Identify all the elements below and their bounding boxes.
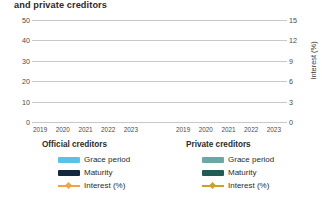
y-axis-right-tick: 15 — [289, 16, 297, 25]
y-axis-left-ticks: 50403020100 — [10, 20, 30, 123]
gridline — [32, 20, 287, 21]
y-axis-right-tick: 0 — [289, 118, 293, 127]
legend-item[interactable]: Interest (%) — [186, 179, 316, 192]
x-axis-right-panel: 20192020202120222023 — [176, 126, 281, 138]
y-axis-left-tick: 40 — [22, 36, 30, 45]
x-axis-tick: 2021 — [221, 126, 235, 133]
legend-item[interactable]: Grace period — [186, 153, 316, 166]
gridline — [32, 40, 287, 41]
legend-diamond-marker-icon — [65, 182, 72, 189]
y-axis-left-tick: 10 — [22, 98, 30, 107]
legend-color-swatch-icon — [202, 170, 224, 176]
legend-swatch-wrap — [42, 183, 80, 189]
legend-swatch-wrap — [186, 170, 224, 176]
x-axis-tick: 2023 — [267, 126, 281, 133]
legend-private-title: Private creditors — [186, 140, 316, 149]
x-axis-tick: 2020 — [56, 126, 70, 133]
legend-official-items: Grace periodMaturityInterest (%) — [42, 153, 172, 192]
y-axis-right-tick: 12 — [289, 36, 297, 45]
legend-line-marker-icon — [202, 183, 224, 189]
y-axis-left-tick: 0 — [26, 118, 30, 127]
x-axis-tick: 2020 — [199, 126, 213, 133]
y-axis-right-title: Interest (%) — [309, 41, 318, 79]
x-axis-tick: 2021 — [78, 126, 92, 133]
legend-private-creditors: Private creditors Grace periodMaturityIn… — [186, 140, 316, 192]
x-axis-left-panel: 20192020202120222023 — [33, 126, 138, 138]
legend-item[interactable]: Maturity — [42, 166, 172, 179]
x-axis-tick: 2022 — [101, 126, 115, 133]
legend-item-label: Maturity — [228, 168, 256, 177]
x-axis-tick: 2022 — [244, 126, 258, 133]
legend-swatch-wrap — [42, 157, 80, 163]
chart-title: and private creditors — [14, 0, 107, 10]
y-axis-left-tick: 20 — [22, 77, 30, 86]
gridline — [32, 102, 287, 103]
y-axis-left-tick: 30 — [22, 57, 30, 66]
legend-private-items: Grace periodMaturityInterest (%) — [186, 153, 316, 192]
y-axis-right-tick: 9 — [289, 57, 293, 66]
legend-item-label: Interest (%) — [228, 181, 269, 190]
plot-area — [32, 20, 287, 123]
y-axis-right-ticks: 15129630 — [289, 20, 307, 123]
legend-line-marker-icon — [58, 183, 80, 189]
legend-swatch-wrap — [186, 157, 224, 163]
legend-item-label: Grace period — [84, 155, 130, 164]
legend-item[interactable]: Maturity — [186, 166, 316, 179]
legend-color-swatch-icon — [58, 170, 80, 176]
x-axis-tick: 2019 — [33, 126, 47, 133]
legend-official-title: Official creditors — [42, 140, 172, 149]
legend-color-swatch-icon — [58, 157, 80, 163]
gridline — [32, 81, 287, 82]
legend-item-label: Grace period — [228, 155, 274, 164]
x-axis-tick: 2019 — [176, 126, 190, 133]
legend-item[interactable]: Grace period — [42, 153, 172, 166]
y-axis-right-tick: 6 — [289, 77, 293, 86]
legend-item[interactable]: Interest (%) — [42, 179, 172, 192]
legend-diamond-marker-icon — [209, 182, 216, 189]
gridline — [32, 122, 287, 123]
legend-item-label: Maturity — [84, 168, 112, 177]
legend-swatch-wrap — [186, 183, 224, 189]
legend-item-label: Interest (%) — [84, 181, 125, 190]
gridline — [32, 61, 287, 62]
x-axis-tick: 2023 — [124, 126, 138, 133]
y-axis-right-tick: 3 — [289, 98, 293, 107]
legend-color-swatch-icon — [202, 157, 224, 163]
legend-swatch-wrap — [42, 170, 80, 176]
legend-official-creditors: Official creditors Grace periodMaturityI… — [42, 140, 172, 192]
y-axis-left-tick: 50 — [22, 16, 30, 25]
